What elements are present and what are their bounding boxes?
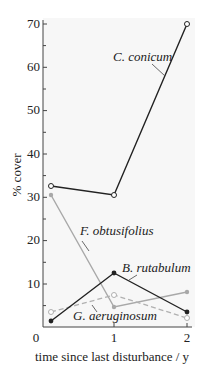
y-tick-50: 50 <box>27 102 40 117</box>
label-g-aeruginosum: G. aeruginosum <box>73 308 157 323</box>
cover-line-chart: 70 60 50 40 30 20 10 0 1 2 time since la… <box>0 0 201 368</box>
y-axis-title: % cover <box>9 153 24 197</box>
x-tick-2: 2 <box>184 330 191 345</box>
label-b-rutabulum: B. rutabulum <box>122 260 191 275</box>
plot-area <box>43 18 195 327</box>
label-c-conicum: C. conicum <box>113 49 172 64</box>
x-tick-0: 0 <box>33 330 40 345</box>
x-axis-title: time since last disturbance / y <box>35 349 190 364</box>
y-tick-20: 20 <box>27 232 40 247</box>
x-tick-1: 1 <box>111 330 118 345</box>
label-f-obtusifolius: F. obtusifolius <box>79 223 153 238</box>
y-tick-30: 30 <box>27 189 40 204</box>
y-tick-10: 10 <box>27 276 40 291</box>
y-tick-70: 70 <box>27 16 40 31</box>
y-tick-60: 60 <box>27 59 40 74</box>
y-tick-40: 40 <box>27 146 40 161</box>
